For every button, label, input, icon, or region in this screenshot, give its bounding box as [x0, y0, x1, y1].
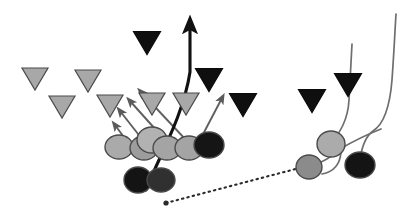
defense-light-triangle-group [22, 68, 199, 118]
right-group [296, 131, 375, 179]
right-circle-blocker-dark [345, 152, 375, 178]
backfield-circle-runningback [147, 168, 175, 192]
defense-triangle-light-4 [97, 95, 123, 117]
defense-triangle-dark-2 [196, 69, 223, 92]
defense-triangle-dark-3 [230, 94, 257, 117]
defense-triangle-light-2 [75, 70, 101, 92]
backfield-group [124, 167, 175, 193]
play-diagram-canvas [0, 0, 419, 214]
offense-circle-1 [105, 135, 133, 159]
pass-origin-dot [163, 200, 168, 205]
receiver-route-3 [360, 14, 396, 160]
offense-line-group [105, 127, 224, 160]
defense-dark-triangle-group [134, 32, 362, 117]
defense-triangle-light-3 [49, 96, 75, 118]
offense-circle-6 [194, 132, 224, 158]
right-circle-receiver-lower [296, 155, 322, 179]
right-circle-receiver-upper [317, 131, 345, 157]
defense-triangle-dark-5 [335, 74, 362, 97]
defense-triangle-light-6 [173, 93, 199, 115]
pass-trajectory-group [163, 166, 307, 206]
pass-trajectory-line [166, 166, 307, 203]
defense-triangle-light-5 [139, 93, 165, 115]
defense-triangle-dark-4 [299, 90, 326, 113]
football-play-diagram [0, 0, 419, 214]
defense-triangle-light-1 [22, 68, 48, 90]
defense-triangle-dark-1 [134, 32, 161, 55]
